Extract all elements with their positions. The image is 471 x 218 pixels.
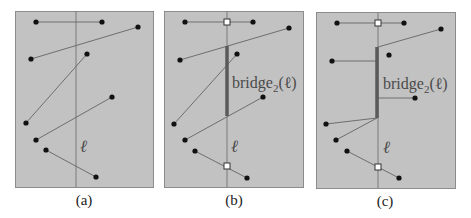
- endpoint: [396, 175, 401, 180]
- sweep-line-label: ℓ: [383, 138, 390, 157]
- endpoint: [329, 58, 334, 63]
- endpoint: [333, 137, 338, 142]
- panel-caption: (c): [377, 193, 394, 210]
- endpoint: [182, 137, 187, 142]
- endpoint: [135, 24, 140, 29]
- endpoint: [33, 137, 38, 142]
- intersection-marker: [375, 164, 381, 170]
- panel-frame: [317, 13, 456, 189]
- endpoint: [244, 175, 249, 180]
- endpoint: [323, 121, 328, 126]
- figure-canvas: ℓ(a)ℓbridge2(ℓ)(b)ℓbridge2(ℓ)(c): [0, 0, 471, 218]
- endpoint: [93, 174, 98, 179]
- endpoint: [412, 95, 417, 100]
- endpoint: [260, 94, 265, 99]
- endpoint: [177, 57, 182, 62]
- endpoint: [286, 25, 291, 30]
- panel-c: ℓbridge2(ℓ)(c): [317, 12, 456, 210]
- intersection-marker: [224, 19, 230, 25]
- endpoint: [33, 19, 38, 24]
- endpoint: [43, 147, 48, 152]
- panel-a: ℓ(a): [16, 11, 154, 209]
- panel-caption: (b): [225, 192, 243, 209]
- endpoint: [386, 52, 391, 57]
- endpoint: [99, 19, 104, 24]
- intersection-marker: [224, 163, 230, 169]
- endpoint: [182, 19, 187, 24]
- endpoint: [28, 56, 33, 61]
- intersection-marker: [375, 20, 381, 26]
- endpoint: [192, 148, 197, 153]
- panel-frame: [165, 12, 304, 188]
- endpoint: [401, 20, 406, 25]
- sweep-line-label: ℓ: [80, 137, 87, 156]
- panel-b: ℓbridge2(ℓ)(b): [165, 11, 304, 209]
- endpoint: [344, 148, 349, 153]
- endpoint: [23, 120, 28, 125]
- endpoint: [250, 19, 255, 24]
- panel-frame: [16, 12, 154, 188]
- sweep-line-label: ℓ: [231, 137, 238, 156]
- endpoint: [438, 26, 443, 31]
- panel-caption: (a): [76, 192, 93, 209]
- endpoint: [334, 20, 339, 25]
- endpoint: [109, 94, 114, 99]
- endpoint: [84, 51, 89, 56]
- endpoint: [234, 51, 239, 56]
- endpoint: [171, 121, 176, 126]
